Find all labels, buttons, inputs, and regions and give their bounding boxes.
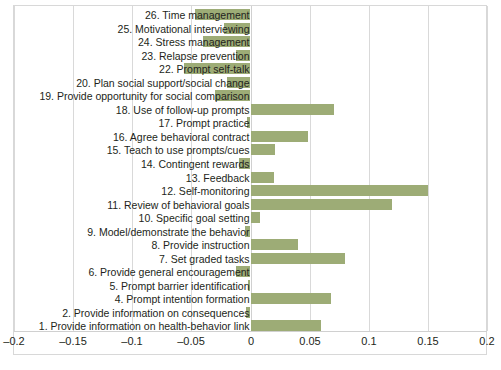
bar-row: 26. Time management: [14, 6, 487, 20]
x-tick-label: –0.05: [177, 335, 205, 347]
bar: [251, 212, 260, 223]
x-tick-label: –0.2: [3, 335, 24, 347]
bar-row: 6. Provide general encouragement: [14, 263, 487, 277]
bar-row: 2. Provide information on consequences: [14, 304, 487, 318]
bar: [251, 239, 298, 250]
bar-row: 20. Plan social support/social change: [14, 74, 487, 88]
x-tick-label: –0.1: [121, 335, 142, 347]
bar-row: 25. Motivational interviewing: [14, 20, 487, 34]
x-axis-line: [14, 331, 487, 332]
x-tick-label: 0.1: [361, 335, 376, 347]
x-tick-label: –0.15: [59, 335, 87, 347]
bar: [251, 293, 331, 304]
bar-row: 23. Relapse prevention: [14, 47, 487, 61]
bar: [251, 253, 346, 264]
bar-row: 17. Prompt practice: [14, 114, 487, 128]
x-tick-label: 0.2: [479, 335, 494, 347]
bar: [251, 199, 393, 210]
bar: [251, 185, 428, 196]
bar: [251, 144, 276, 155]
bar-row: 11. Review of behavioral goals: [14, 196, 487, 210]
bar-row: 15. Teach to use prompts/cues: [14, 141, 487, 155]
x-axis-tick-labels: –0.2–0.15–0.1–0.0500.050.10.150.2: [14, 335, 487, 353]
bar: [251, 131, 309, 142]
bar-row: 9. Model/demonstrate the behavior: [14, 223, 487, 237]
x-tick-label: 0.05: [299, 335, 320, 347]
gridline: [487, 6, 488, 331]
bar: [251, 104, 335, 115]
bar-row: 5. Prompt barrier identification: [14, 277, 487, 291]
bar-row-label: 26. Time management: [145, 7, 249, 23]
bar-row: 10. Specific goal setting: [14, 209, 487, 223]
x-tick-label: 0.15: [417, 335, 438, 347]
bar-row: 4. Prompt intention formation: [14, 290, 487, 304]
chart-figure: 1. Provide information on health-behavio…: [0, 0, 501, 370]
bar: [251, 172, 275, 183]
bar-row: 13. Feedback: [14, 169, 487, 183]
x-tick-label: 0: [248, 335, 254, 347]
bar-rows: 1. Provide information on health-behavio…: [14, 6, 487, 331]
bar-row: 16. Agree behavioral contract: [14, 128, 487, 142]
bar-row: 7. Set graded tasks: [14, 250, 487, 264]
bar-row: 22. Prompt self-talk: [14, 60, 487, 74]
bar-row: 8. Provide instruction: [14, 236, 487, 250]
plot-area: 1. Provide information on health-behavio…: [14, 6, 487, 331]
bar-row: 14. Contingent rewards: [14, 155, 487, 169]
bar: [251, 320, 322, 331]
bar-row: 12. Self-monitoring: [14, 182, 487, 196]
bar-row: 24. Stress management: [14, 33, 487, 47]
